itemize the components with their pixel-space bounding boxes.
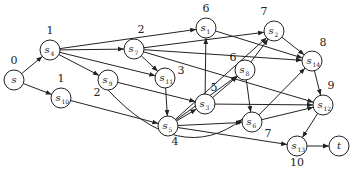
node-label: s <box>11 74 16 85</box>
edge-s10-s5 <box>71 101 159 124</box>
node-subscript: 6 <box>253 122 257 129</box>
edge-s14-s12 <box>314 71 320 96</box>
node-label: s <box>128 43 133 54</box>
node-s4: s41 <box>40 24 60 60</box>
edge-s3-s1 <box>205 38 206 94</box>
node-s8: s86 <box>230 51 256 80</box>
node-subscript: 7 <box>135 49 139 56</box>
node-subscript: 10 <box>62 98 70 105</box>
edge-s-s4 <box>22 56 43 73</box>
edge-s6-s14 <box>259 68 305 115</box>
node-label: s <box>317 99 322 110</box>
level-label: 6 <box>203 2 210 15</box>
level-label: 3 <box>178 64 185 77</box>
node-subscript: 12 <box>324 105 332 112</box>
level-label: 1 <box>47 24 54 37</box>
level-label: 0 <box>11 54 18 67</box>
node-subscript: 11 <box>166 78 174 85</box>
edge-s5-s6 <box>178 122 242 125</box>
node-s11: s113 <box>155 64 185 88</box>
node-s: s0 <box>4 54 24 90</box>
node-s2: s27 <box>261 5 285 41</box>
level-label: 6 <box>230 51 237 64</box>
node-s7: s72 <box>124 23 145 59</box>
edge-s9-s3 <box>118 82 196 101</box>
level-label: 7 <box>261 5 268 18</box>
edge-s8-s6 <box>246 80 250 112</box>
node-s12: s129 <box>313 79 335 115</box>
node-label: s <box>200 22 205 33</box>
edge-s11-s5 <box>166 88 168 116</box>
node-label: s <box>159 72 164 83</box>
edge-s5-s2 <box>175 38 266 120</box>
level-label: 10 <box>290 156 304 169</box>
node-s13: s1310 <box>287 136 307 169</box>
node-label: s <box>55 92 60 103</box>
node-subscript: 3 <box>206 104 210 111</box>
graph-diagram: s0s41s101s92s72s113s16s35s54s86s27s67s14… <box>0 0 353 172</box>
edge-s4-s7 <box>60 49 124 50</box>
node-label: s <box>102 74 107 85</box>
node-s14: s148 <box>302 36 327 71</box>
node-label: s <box>199 98 204 109</box>
node-s3: s35 <box>195 81 218 114</box>
node-subscript: 13 <box>298 146 306 153</box>
node-subscript: 9 <box>109 80 113 87</box>
level-label: 9 <box>328 79 335 92</box>
edge-s4-s9 <box>59 55 99 76</box>
node-subscript: 2 <box>275 31 279 38</box>
level-label: 2 <box>138 23 145 36</box>
node-label: s <box>239 64 244 75</box>
node-subscript: 14 <box>313 61 321 68</box>
node-label: s <box>44 44 49 55</box>
node-s1: s16 <box>196 2 216 38</box>
level-label: 2 <box>94 86 101 99</box>
edge-s6-s12 <box>262 107 314 119</box>
level-label: 1 <box>58 72 65 85</box>
edge-s3-s12 <box>215 104 313 105</box>
node-label: s <box>246 116 251 127</box>
node-s5: s54 <box>158 116 179 148</box>
node-label: s <box>268 25 273 36</box>
edge-s-s10 <box>23 84 51 95</box>
node-subscript: 4 <box>51 50 55 57</box>
node-subscript: 5 <box>169 126 173 133</box>
node-label: s <box>162 120 167 131</box>
level-label: 4 <box>172 135 179 148</box>
node-label: s <box>291 140 296 151</box>
edge-s12-s13 <box>302 113 317 137</box>
nodes-layer: s0s41s101s92s72s113s16s35s54s86s27s67s14… <box>4 2 349 169</box>
node-subscript: 8 <box>246 70 250 77</box>
node-label: s <box>306 55 311 66</box>
node-subscript: 1 <box>207 28 211 35</box>
node-s6: s67 <box>242 112 272 140</box>
level-label: 7 <box>265 127 272 140</box>
node-t: t <box>329 136 349 156</box>
level-label: 8 <box>320 36 327 49</box>
node-s10: s101 <box>51 72 71 108</box>
edge-s7-s11 <box>141 56 157 71</box>
level-label: 5 <box>211 81 218 94</box>
